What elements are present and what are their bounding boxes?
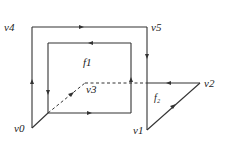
vertex-label-v5: v5 — [151, 21, 162, 33]
vertex-label-v4: v4 — [4, 21, 15, 33]
vertex-label-v2: v2 — [204, 77, 215, 89]
graph-diagram: v4 v5 v0 v1 v2 v3 f1 f₂ — [0, 0, 228, 143]
edge-dashed-v3 — [48, 83, 85, 113]
inner-face-boundary — [48, 43, 131, 113]
face-label-f1: f1 — [83, 56, 92, 68]
vertex-label-v1: v1 — [133, 124, 143, 136]
vertex-label-v3: v3 — [86, 83, 97, 95]
face-label-f2: f₂ — [154, 92, 161, 103]
vertex-label-v0: v0 — [14, 122, 25, 134]
edge-v0-inner — [32, 113, 48, 128]
